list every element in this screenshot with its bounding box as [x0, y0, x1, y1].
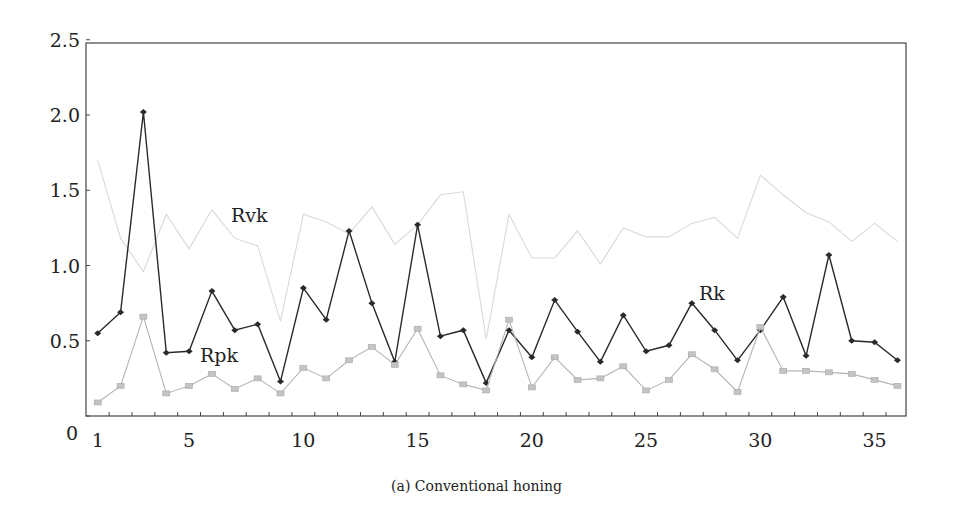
data-point [414, 326, 421, 331]
y-tick-label: 1.5 [50, 179, 80, 201]
data-point [825, 370, 832, 375]
data-point [231, 327, 238, 333]
data-point [825, 252, 832, 258]
data-point [597, 376, 604, 381]
data-point [528, 385, 535, 390]
series-line [98, 112, 898, 383]
data-point [208, 288, 215, 294]
data-point [665, 377, 672, 382]
data-point [665, 342, 672, 348]
data-point [140, 314, 147, 319]
x-tick-label: 30 [748, 429, 772, 451]
data-point [894, 383, 901, 388]
data-point [460, 327, 467, 333]
data-point [551, 355, 558, 360]
data-point [391, 362, 398, 367]
data-point [803, 368, 810, 373]
data-point [848, 371, 855, 376]
data-point [483, 388, 490, 393]
data-point [643, 388, 650, 393]
data-point [277, 378, 284, 384]
data-point [186, 383, 193, 388]
x-axis: 15101520253035 [92, 429, 887, 451]
data-point [368, 300, 375, 306]
x-tick-label: 1 [92, 429, 104, 451]
data-point [460, 382, 467, 387]
data-point [323, 376, 330, 381]
data-point [506, 317, 513, 322]
data-point [620, 364, 627, 369]
figure-caption: (a) Conventional honing [0, 478, 953, 494]
y-tick-label: 1.0 [50, 255, 80, 277]
data-point [140, 109, 147, 115]
data-point [346, 358, 353, 363]
x-tick-label: 5 [183, 429, 195, 451]
data-point [711, 367, 718, 372]
data-point [734, 389, 741, 394]
x-tick-label: 20 [520, 429, 544, 451]
data-point [368, 344, 375, 349]
series-label-rpk: Rpk [200, 344, 238, 366]
data-point [437, 373, 444, 378]
y-axis: 00.51.01.52.02.5 [50, 29, 90, 444]
x-tick-label: 10 [291, 429, 315, 451]
data-point [254, 376, 261, 381]
series-rvk [98, 160, 898, 339]
data-point [871, 377, 878, 382]
data-point [277, 391, 284, 396]
data-point [574, 377, 581, 382]
data-point [848, 338, 855, 344]
data-point [186, 348, 193, 354]
data-point [208, 371, 215, 376]
data-point [780, 294, 787, 300]
data-point [757, 325, 764, 330]
data-point [231, 386, 238, 391]
series-line [98, 160, 898, 339]
data-point [780, 368, 787, 373]
data-point [551, 297, 558, 303]
data-point [437, 333, 444, 339]
y-tick-label: 0 [66, 422, 78, 444]
data-point [163, 391, 170, 396]
y-tick-label: 0.5 [50, 330, 80, 352]
line-chart: 00.51.01.52.02.5 15101520253035 RvkRkRpk [0, 0, 953, 519]
series-label-rk: Rk [699, 282, 725, 304]
x-tick-label: 25 [634, 429, 658, 451]
data-point [803, 353, 810, 359]
data-point [620, 312, 627, 318]
data-point [300, 285, 307, 291]
y-tick-label: 2.0 [50, 104, 80, 126]
x-tick-label: 15 [406, 429, 430, 451]
data-point [254, 321, 261, 327]
x-tick-label: 35 [863, 429, 887, 451]
data-point [117, 383, 124, 388]
y-tick-label: 2.5 [50, 29, 80, 51]
data-point [163, 350, 170, 356]
data-point [323, 317, 330, 323]
series-label-rvk: Rvk [231, 204, 268, 226]
data-point [94, 400, 101, 405]
series-labels: RvkRkRpk [200, 204, 725, 366]
data-point [688, 352, 695, 357]
data-point [643, 348, 650, 354]
data-point [300, 365, 307, 370]
